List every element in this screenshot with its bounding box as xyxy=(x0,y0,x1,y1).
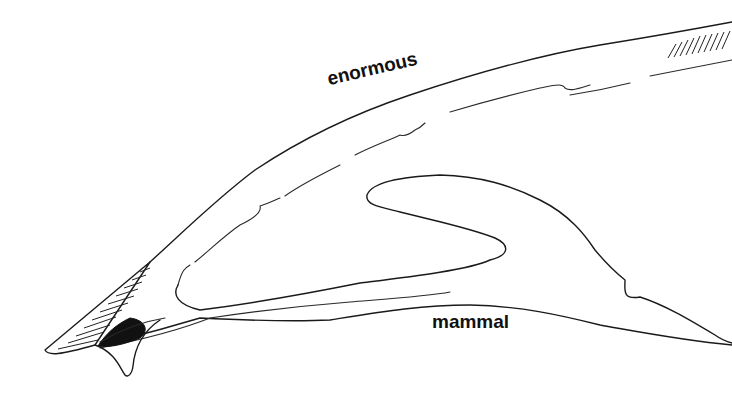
upper-outline xyxy=(150,22,732,262)
label-mammal: mammal xyxy=(432,311,509,333)
inner-dorsal-line xyxy=(178,165,340,285)
tail-hatch xyxy=(668,31,730,58)
lower-jaw-line xyxy=(120,305,732,345)
mouth-shadow xyxy=(98,318,145,347)
inner-dorsal-line-mid xyxy=(355,85,590,155)
inner-dorsal-line-right xyxy=(570,60,732,95)
illustration-canvas: enormous mammal xyxy=(0,0,732,408)
